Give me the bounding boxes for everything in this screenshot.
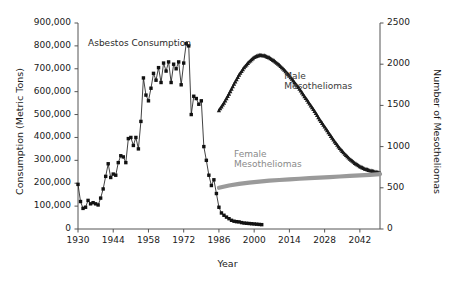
data-point-marker bbox=[157, 66, 160, 69]
data-point-marker bbox=[182, 61, 185, 64]
y-axis-right-tick-label: 1500 bbox=[387, 99, 410, 109]
data-point-marker bbox=[195, 97, 198, 100]
data-point-marker bbox=[149, 87, 152, 90]
data-point-marker bbox=[132, 144, 135, 147]
male-mesotheliomas-label: MaleMesotheliomas bbox=[284, 71, 352, 92]
data-point-marker bbox=[142, 76, 145, 79]
data-point-marker bbox=[76, 183, 79, 186]
data-point-marker bbox=[174, 67, 177, 70]
data-point-marker bbox=[109, 176, 112, 179]
data-point-marker bbox=[154, 79, 157, 82]
y-axis-left-tick-label: 500,000 bbox=[0, 109, 71, 119]
data-point-marker bbox=[101, 187, 104, 190]
y-axis-right-tick-label: 0 bbox=[387, 223, 393, 233]
y-axis-left-tick-label: 300,000 bbox=[0, 154, 71, 164]
data-point-marker bbox=[212, 178, 215, 181]
data-point-marker bbox=[124, 161, 127, 164]
x-axis-title: Year bbox=[0, 258, 455, 269]
data-point-marker bbox=[144, 93, 147, 96]
data-point-marker bbox=[167, 60, 170, 63]
data-point-marker bbox=[215, 192, 218, 195]
data-point-marker bbox=[197, 103, 200, 106]
data-point-marker bbox=[164, 69, 167, 72]
y-axis-right-tick-label: 500 bbox=[387, 182, 404, 192]
data-point-marker bbox=[117, 161, 120, 164]
data-point-marker bbox=[122, 155, 125, 158]
data-point-marker bbox=[134, 136, 137, 139]
data-point-marker bbox=[152, 72, 155, 75]
female-mesotheliomas-label: FemaleMesotheliomas bbox=[234, 149, 302, 170]
mesothelioma-asbestos-chart: Consumption (Metric Tons) Number of Meso… bbox=[0, 0, 455, 284]
axis-frame bbox=[78, 23, 380, 229]
data-point-marker bbox=[169, 81, 172, 84]
data-point-marker bbox=[217, 206, 220, 209]
data-point-marker bbox=[177, 60, 180, 63]
data-point-marker bbox=[107, 162, 110, 165]
data-point-marker bbox=[207, 174, 210, 177]
series-line bbox=[78, 44, 262, 225]
data-point-marker bbox=[114, 174, 117, 177]
data-point-marker bbox=[162, 61, 165, 64]
data-point-marker bbox=[79, 200, 82, 203]
y-axis-left-tick-label: 100,000 bbox=[0, 200, 71, 210]
data-point-marker bbox=[200, 99, 203, 102]
data-point-marker bbox=[137, 147, 140, 150]
y-axis-left-tick-label: 200,000 bbox=[0, 177, 71, 187]
y-axis-right-tick-label: 2000 bbox=[387, 58, 410, 68]
data-point-marker bbox=[210, 184, 213, 187]
data-point-marker bbox=[139, 120, 142, 123]
y-axis-right-tick-label: 2500 bbox=[387, 17, 410, 27]
x-axis-tick-label: 2042 bbox=[336, 235, 384, 245]
series-line bbox=[219, 174, 380, 188]
y-axis-right-title: Number of Mesotheliomas bbox=[432, 47, 443, 217]
y-axis-left-tick-label: 900,000 bbox=[0, 17, 71, 27]
data-point-marker bbox=[104, 175, 107, 178]
asbestos-consumption-label: Asbestos Consumption bbox=[88, 38, 191, 49]
data-point-marker bbox=[202, 145, 205, 148]
y-axis-left-tick-label: 600,000 bbox=[0, 86, 71, 96]
y-axis-right-tick-label: 1000 bbox=[387, 141, 410, 151]
data-point-marker bbox=[84, 206, 87, 209]
series-asbestos-consumption bbox=[76, 42, 263, 226]
y-axis-left-tick-label: 400,000 bbox=[0, 131, 71, 141]
data-point-marker bbox=[86, 199, 89, 202]
data-point-marker bbox=[172, 63, 175, 66]
data-point-marker bbox=[260, 223, 263, 226]
data-point-marker bbox=[129, 136, 132, 139]
data-point-marker bbox=[159, 81, 162, 84]
y-axis-left-tick-label: 0 bbox=[0, 223, 71, 233]
data-point-marker bbox=[179, 83, 182, 86]
data-point-marker bbox=[190, 113, 193, 116]
y-axis-left-tick-label: 700,000 bbox=[0, 63, 71, 73]
data-point-marker bbox=[96, 203, 99, 206]
y-axis-left-tick-label: 800,000 bbox=[0, 40, 71, 50]
series-female-mesotheliomas bbox=[219, 174, 380, 188]
data-point-marker bbox=[147, 99, 150, 102]
data-point-marker bbox=[205, 159, 208, 162]
data-point-marker bbox=[99, 196, 102, 199]
